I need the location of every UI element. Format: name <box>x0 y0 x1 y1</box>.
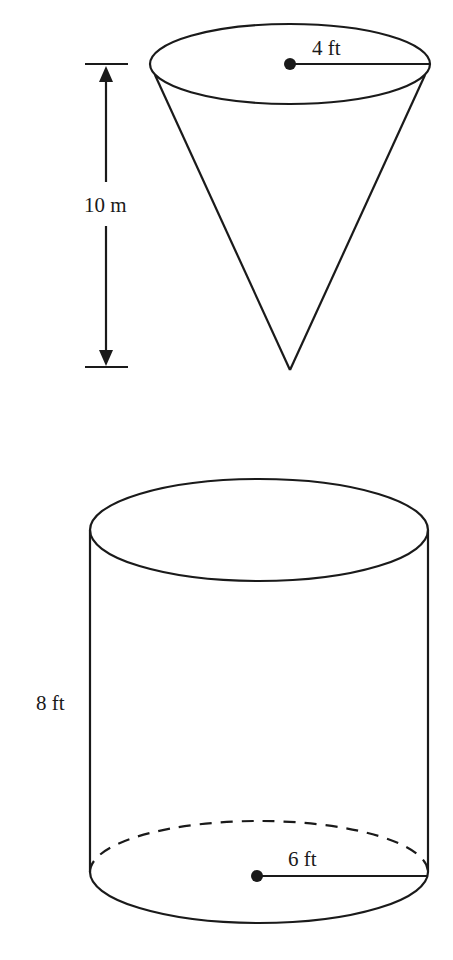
cylinder-height-label: 8 ft <box>36 691 65 715</box>
cylinder-top-ellipse <box>90 479 428 581</box>
cone-right-side <box>290 75 425 370</box>
cylinder-radius-label: 6 ft <box>288 847 317 871</box>
cone-height-label: 10 m <box>84 193 127 217</box>
cone-height-indicator: 10 m <box>84 64 128 367</box>
cylinder-bottom-back-arc <box>90 821 428 872</box>
arrow-down-icon <box>99 350 113 366</box>
cone-figure: 4 ft 10 m <box>84 24 430 370</box>
cone-left-side <box>155 75 290 370</box>
geometry-diagram: 4 ft 10 m 6 ft 8 ft <box>0 0 453 960</box>
arrow-up-icon <box>99 66 113 82</box>
cylinder-figure: 6 ft 8 ft <box>36 479 428 923</box>
cone-radius-label: 4 ft <box>312 36 341 60</box>
